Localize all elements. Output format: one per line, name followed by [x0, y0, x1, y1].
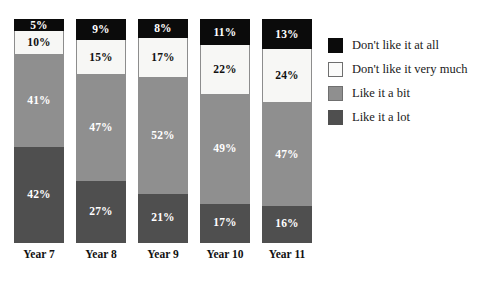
- bar-segment-dont-like-at-all[interactable]: 13%: [262, 19, 312, 49]
- segment-value-label: 52%: [151, 130, 175, 142]
- bar-segment-like-a-bit[interactable]: 49%: [200, 94, 250, 204]
- bar-group-year-8: 9% 15% 47% 27%: [76, 19, 126, 243]
- bar-segment-like-a-bit[interactable]: 52%: [138, 77, 188, 195]
- legend-swatch-mid-gray-icon: [328, 86, 343, 101]
- bar-stack: 8% 17% 52% 21%: [138, 19, 188, 243]
- segment-value-label: 15%: [89, 52, 113, 64]
- stacked-bar-chart: 5% 10% 41% 42% 9% 15%: [0, 0, 491, 281]
- bar-segment-dont-like-very-much[interactable]: 24%: [262, 49, 312, 102]
- segment-value-label: 47%: [89, 122, 113, 134]
- segment-value-label: 47%: [275, 149, 299, 161]
- bar-segment-dont-like-at-all[interactable]: 11%: [200, 19, 250, 45]
- segment-value-label: 16%: [275, 218, 299, 230]
- bar-group-year-11: 13% 24% 47% 16%: [262, 19, 312, 243]
- category-label-year-9: Year 9: [138, 248, 188, 268]
- segment-value-label: 27%: [89, 206, 113, 218]
- bar-segment-like-a-lot[interactable]: 42%: [14, 147, 64, 243]
- segment-value-label: 21%: [151, 212, 175, 224]
- bar-segment-dont-like-very-much[interactable]: 22%: [200, 45, 250, 94]
- segment-value-label: 10%: [27, 37, 51, 49]
- segment-value-label: 13%: [275, 29, 299, 41]
- bar-segment-like-a-bit[interactable]: 47%: [76, 74, 126, 180]
- segment-value-label: 49%: [213, 143, 237, 155]
- bar-group-year-10: 11% 22% 49% 17%: [200, 19, 250, 243]
- segment-value-label: 5%: [30, 20, 48, 31]
- bar-stack: 9% 15% 47% 27%: [76, 19, 126, 243]
- segment-value-label: 8%: [154, 23, 172, 35]
- legend-label: Don't like it at all: [352, 39, 439, 52]
- legend-swatch-black-icon: [328, 38, 343, 53]
- bar-stack: 11% 22% 49% 17%: [200, 19, 250, 243]
- bar-stack: 5% 10% 41% 42%: [14, 19, 64, 243]
- category-label-year-11: Year 11: [262, 248, 312, 268]
- legend-swatch-dark-gray-icon: [328, 110, 343, 125]
- legend-item-dont-like-very-much[interactable]: Don't like it very much: [328, 57, 488, 81]
- bar-segment-dont-like-at-all[interactable]: 8%: [138, 19, 188, 38]
- bar-segment-dont-like-very-much[interactable]: 17%: [138, 38, 188, 77]
- segment-value-label: 22%: [213, 64, 237, 76]
- legend-swatch-white-icon: [328, 62, 343, 77]
- segment-value-label: 24%: [275, 70, 299, 82]
- segment-value-label: 42%: [27, 189, 51, 201]
- bar-segment-dont-like-very-much[interactable]: 10%: [14, 31, 64, 54]
- plot-area: 5% 10% 41% 42% 9% 15%: [14, 19, 314, 243]
- segment-value-label: 9%: [92, 24, 110, 36]
- bar-segment-like-a-bit[interactable]: 47%: [262, 102, 312, 206]
- legend-item-dont-like-at-all[interactable]: Don't like it at all: [328, 33, 488, 57]
- segment-value-label: 17%: [213, 217, 237, 229]
- segment-value-label: 17%: [151, 52, 175, 64]
- category-label-year-7: Year 7: [14, 248, 64, 268]
- bar-group-year-9: 8% 17% 52% 21%: [138, 19, 188, 243]
- bar-segment-dont-like-at-all[interactable]: 9%: [76, 19, 126, 40]
- bar-segment-like-a-lot[interactable]: 17%: [200, 204, 250, 243]
- bar-segment-like-a-lot[interactable]: 27%: [76, 181, 126, 243]
- bar-segment-dont-like-very-much[interactable]: 15%: [76, 40, 126, 74]
- category-label-year-10: Year 10: [200, 248, 250, 268]
- bar-segment-like-a-lot[interactable]: 16%: [262, 206, 312, 243]
- bar-segment-dont-like-at-all[interactable]: 5%: [14, 19, 64, 31]
- segment-value-label: 41%: [27, 95, 51, 107]
- legend-label: Like it a bit: [352, 87, 410, 100]
- legend-item-like-a-bit[interactable]: Like it a bit: [328, 81, 488, 105]
- chart-legend: Don't like it at all Don't like it very …: [328, 33, 488, 129]
- legend-item-like-a-lot[interactable]: Like it a lot: [328, 105, 488, 129]
- bar-stack: 13% 24% 47% 16%: [262, 19, 312, 243]
- category-axis: Year 7 Year 8 Year 9 Year 10 Year 11: [14, 248, 314, 268]
- category-label-year-8: Year 8: [76, 248, 126, 268]
- segment-value-label: 11%: [214, 27, 237, 39]
- legend-label: Don't like it very much: [352, 63, 467, 76]
- bar-segment-like-a-bit[interactable]: 41%: [14, 54, 64, 147]
- bar-segment-like-a-lot[interactable]: 21%: [138, 194, 188, 243]
- legend-label: Like it a lot: [352, 111, 410, 124]
- bar-group-year-7: 5% 10% 41% 42%: [14, 19, 64, 243]
